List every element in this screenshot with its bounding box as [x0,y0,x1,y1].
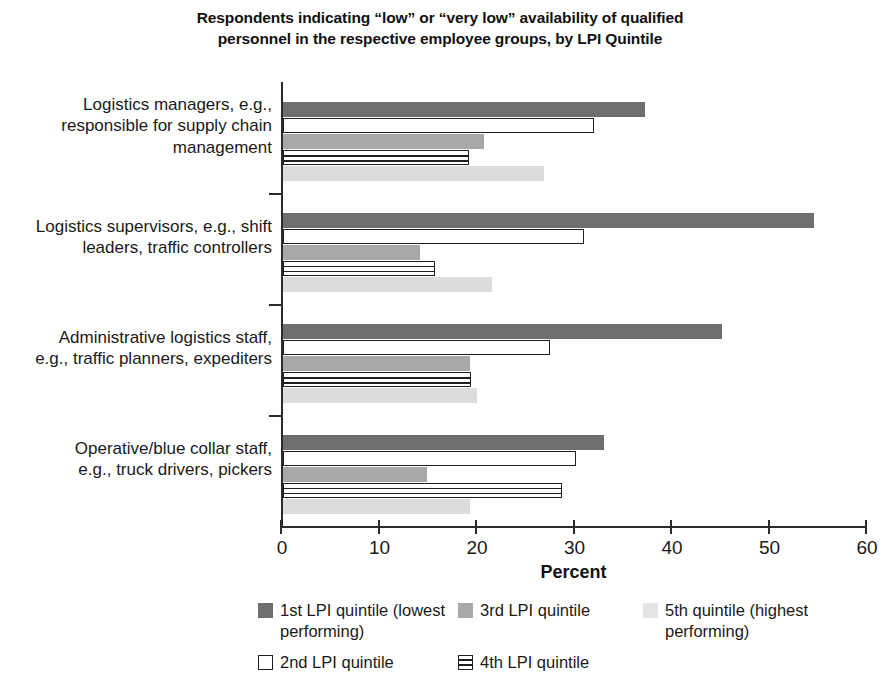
bar-q2-group-1 [283,118,594,133]
category-label-line: e.g., truck drivers, pickers [20,459,272,480]
bar-q2-group-4 [283,451,576,466]
bar-q4-group-3 [283,372,471,387]
legend-item-q5[interactable]: 5th quintile (highest performing) [643,600,858,643]
plot-area: 0102030405060 [281,82,866,526]
chart-title: Respondents indicating “low” or “very lo… [120,8,760,50]
bar-q5-group-4 [283,499,470,514]
legend-label: 4th LPI quintile [480,652,589,673]
category-axis-labels: Logistics managers, e.g.,responsible for… [0,82,272,526]
legend-item-q3[interactable]: 3rd LPI quintile [458,600,633,621]
chart-title-line-2: personnel in the respective employee gro… [120,29,760,50]
bar-q5-group-2 [283,277,492,292]
x-axis-tick-label: 10 [360,537,400,559]
category-label-line: responsible for supply chain [20,115,272,136]
bar-q4-group-4 [283,483,562,498]
legend-swatch-q2-icon [258,655,273,670]
category-label-line: Administrative logistics staff, [20,327,272,348]
bar-q3-group-4 [283,467,427,482]
bar-q5-group-3 [283,388,477,403]
category-label-3: Administrative logistics staff,e.g., tra… [20,327,272,370]
x-axis-tick-label: 0 [262,537,302,559]
x-axis-tick-label: 60 [847,537,882,559]
bar-q3-group-3 [283,356,470,371]
legend-swatch-q5-icon [643,603,658,618]
category-label-line: Operative/blue collar staff, [20,438,272,459]
bar-q3-group-2 [283,245,420,260]
x-axis-tick [280,520,282,534]
legend-item-q2[interactable]: 2nd LPI quintile [258,652,453,673]
category-label-line: e.g., traffic planners, expediters [20,348,272,369]
legend-item-q4[interactable]: 4th LPI quintile [458,652,633,673]
category-label-1: Logistics managers, e.g.,responsible for… [20,94,272,158]
chart-title-line-1: Respondents indicating “low” or “very lo… [120,8,760,29]
legend-item-q1[interactable]: 1st LPI quintile (lowest performing) [258,600,453,643]
chart-legend: 1st LPI quintile (lowest performing)2nd … [258,600,868,682]
legend-swatch-q4-icon [458,655,473,670]
bar-q1-group-3 [283,324,722,339]
category-axis-tick [269,304,281,306]
x-axis-title: Percent [281,562,866,583]
x-axis-tick [378,520,380,534]
bar-q5-group-1 [283,166,544,181]
bar-q4-group-2 [283,261,435,276]
category-axis-tick [269,415,281,417]
bar-q1-group-2 [283,213,814,228]
bar-q4-group-1 [283,150,469,165]
x-axis-tick [670,520,672,534]
category-label-line: Logistics managers, e.g., [20,94,272,115]
legend-label: 2nd LPI quintile [280,652,394,673]
x-axis-tick-label: 30 [555,537,595,559]
category-label-line: leaders, traffic controllers [20,237,272,258]
x-axis-tick [768,520,770,534]
x-axis-tick [573,520,575,534]
bar-q3-group-1 [283,134,484,149]
category-label-line: Logistics supervisors, e.g., shift [20,216,272,237]
legend-label: 1st LPI quintile (lowest performing) [280,600,453,643]
x-axis-tick [475,520,477,534]
legend-swatch-q1-icon [258,603,273,618]
legend-label: 5th quintile (highest performing) [665,600,858,643]
x-axis-tick [865,520,867,534]
category-label-2: Logistics supervisors, e.g., shiftleader… [20,216,272,259]
bar-q2-group-3 [283,340,550,355]
x-axis-tick-label: 40 [652,537,692,559]
x-axis-tick-label: 20 [457,537,497,559]
legend-swatch-q3-icon [458,603,473,618]
category-label-4: Operative/blue collar staff,e.g., truck … [20,438,272,481]
bar-q1-group-1 [283,102,645,117]
x-axis-tick-label: 50 [750,537,790,559]
legend-label: 3rd LPI quintile [480,600,590,621]
bar-q1-group-4 [283,435,604,450]
bar-q2-group-2 [283,229,584,244]
category-axis-tick [269,193,281,195]
category-label-line: management [20,137,272,158]
